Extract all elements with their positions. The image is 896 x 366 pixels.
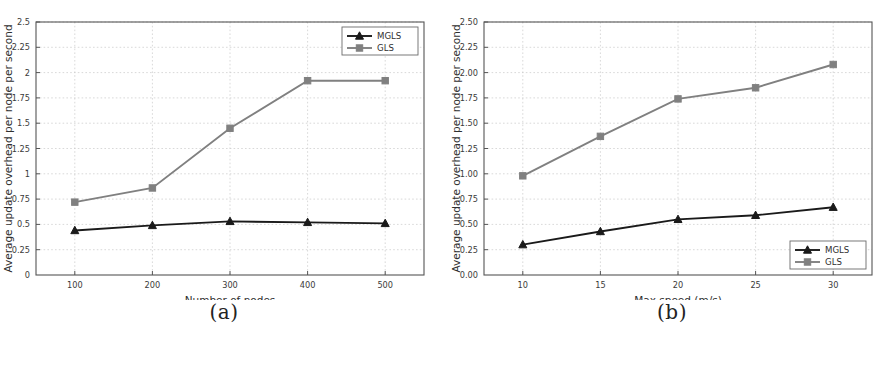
y-tick-label: 2.25 [460, 42, 478, 52]
y-tick-label: 0.25 [12, 245, 30, 255]
figure-row: 00.250.50.7511.251.51.7522.252.510020030… [0, 0, 896, 366]
x-tick-label: 400 [300, 280, 316, 290]
y-tick-label: 0.5 [17, 219, 30, 229]
marker-square-gls [752, 85, 758, 91]
x-tick-label: 300 [222, 280, 238, 290]
y-axis-title: Average update overhead per node per sec… [2, 24, 14, 272]
x-tick-label: 25 [750, 280, 760, 290]
marker-square-gls [830, 61, 836, 67]
marker-square-gls [520, 173, 526, 179]
y-tick-label: 1.25 [12, 144, 30, 154]
y-tick-label: 0.75 [12, 194, 30, 204]
y-tick-label: 0.50 [460, 219, 478, 229]
y-tick-label: 2.00 [460, 68, 478, 78]
marker-square-gls [304, 77, 310, 83]
y-tick-label: 0.25 [460, 245, 478, 255]
chart-b: 0.000.250.500.751.001.251.501.752.002.25… [448, 0, 896, 300]
chart-a: 00.250.50.7511.251.51.7522.252.510020030… [0, 0, 448, 300]
y-tick-label: 1.00 [460, 169, 478, 179]
legend-marker-square [804, 259, 810, 265]
line-chart-a: 00.250.50.7511.251.51.7522.252.510020030… [0, 0, 448, 300]
legend-label-mgls: MGLS [377, 31, 401, 41]
x-tick-label: 30 [828, 280, 838, 290]
marker-square-gls [72, 199, 78, 205]
x-tick-label: 10 [518, 280, 528, 290]
subfigure-a-caption: (a) [0, 300, 448, 324]
legend-label-gls: GLS [377, 43, 394, 53]
x-tick-label: 20 [673, 280, 683, 290]
subfigure-b-caption: (b) [448, 300, 896, 324]
y-tick-label: 1.75 [460, 93, 478, 103]
y-tick-label: 0 [25, 270, 30, 280]
marker-square-gls [675, 96, 681, 102]
subfigure-a: 00.250.50.7511.251.51.7522.252.510020030… [0, 0, 448, 366]
marker-square-gls [382, 77, 388, 83]
marker-square-gls [149, 185, 155, 191]
legend-label-gls: GLS [825, 257, 842, 267]
legend-label-mgls: MGLS [825, 245, 849, 255]
line-chart-b: 0.000.250.500.751.001.251.501.752.002.25… [448, 0, 896, 300]
y-tick-label: 0.00 [460, 270, 478, 280]
y-tick-label: 1.5 [17, 118, 30, 128]
y-tick-label: 2.5 [17, 17, 30, 27]
x-tick-label: 15 [595, 280, 605, 290]
y-tick-label: 2.25 [12, 42, 30, 52]
y-tick-label: 2.50 [460, 17, 478, 27]
x-tick-label: 500 [377, 280, 393, 290]
marker-square-gls [227, 125, 233, 131]
y-tick-label: 1.25 [460, 144, 478, 154]
marker-square-gls [597, 133, 603, 139]
subfigure-b: 0.000.250.500.751.001.251.501.752.002.25… [448, 0, 896, 366]
legend-marker-square [356, 45, 362, 51]
y-tick-label: 1.50 [460, 118, 478, 128]
y-tick-label: 1 [25, 169, 30, 179]
x-tick-label: 200 [145, 280, 161, 290]
x-tick-label: 100 [67, 280, 83, 290]
y-axis-title: Average update overhead per node per sec… [450, 24, 462, 272]
y-tick-label: 1.75 [12, 93, 30, 103]
y-tick-label: 2 [25, 68, 30, 78]
y-tick-label: 0.75 [460, 194, 478, 204]
